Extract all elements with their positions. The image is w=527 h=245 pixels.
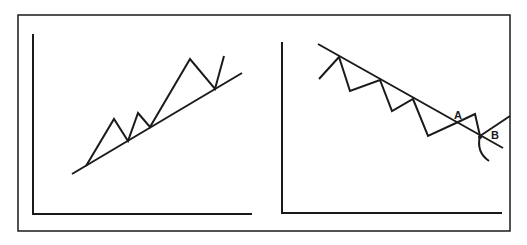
uptrend-axes	[33, 34, 252, 214]
downtrend-axes	[282, 42, 502, 213]
label-b: B	[491, 129, 499, 141]
uptrend-support-line	[72, 73, 242, 174]
point-b-dot	[478, 135, 482, 139]
downtrend-price-path	[319, 57, 480, 136]
figure-canvas: A B	[0, 0, 527, 245]
panel-uptrend	[33, 34, 252, 214]
label-a: A	[454, 109, 462, 121]
uptrend-price-path	[86, 56, 224, 166]
downtrend-resistance-line	[318, 44, 503, 148]
outer-frame	[18, 15, 510, 231]
panel-downtrend: A B	[282, 42, 510, 213]
